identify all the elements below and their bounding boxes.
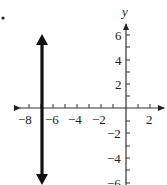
arrow-down-icon: [36, 174, 48, 185]
y-tick-label: −4: [107, 151, 121, 166]
y-axis-label: y: [120, 4, 128, 19]
x-tick-label: −6: [45, 112, 59, 127]
y-tick-label: 6: [115, 28, 122, 43]
x-tick-label: −2: [92, 112, 106, 127]
coordinate-plane: y −8 −6 −4 −2 2 6 4 2 −2 −4 −6: [0, 0, 167, 185]
x-tick-label: 2: [146, 112, 153, 127]
x-tick-label: −8: [18, 112, 32, 127]
y-tick-label: 4: [115, 53, 122, 68]
y-tick-label: −2: [107, 126, 121, 141]
y-tick-label: −6: [107, 176, 121, 185]
bullet-dot: [1, 16, 4, 19]
arrow-up-icon: [36, 34, 48, 45]
x-tick-label: −4: [68, 112, 82, 127]
y-tick-label: 2: [115, 77, 122, 92]
